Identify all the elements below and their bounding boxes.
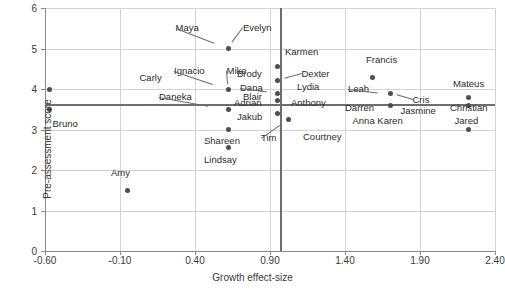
x-tick-label: 1.90	[410, 255, 429, 266]
point-label: Adrian	[234, 98, 261, 108]
point-label: Courtney	[303, 132, 342, 142]
y-tick-mark	[41, 89, 45, 90]
point-label: Lindsay	[204, 155, 237, 165]
data-point[interactable]	[275, 91, 280, 96]
x-tick-label: -0.60	[34, 255, 57, 266]
y-tick-label: 5	[15, 43, 37, 54]
x-tick-label: 0.40	[185, 255, 204, 266]
y-tick-label: 1	[15, 205, 37, 216]
point-label: Dexter	[302, 69, 330, 79]
data-point[interactable]	[388, 91, 393, 96]
data-point[interactable]	[275, 98, 280, 103]
point-label: Cris	[413, 95, 430, 105]
label-leader-line	[284, 73, 302, 79]
data-point[interactable]	[466, 127, 471, 132]
data-point[interactable]	[226, 87, 231, 92]
point-label: Karmen	[285, 47, 318, 57]
y-tick-mark	[41, 8, 45, 9]
data-point[interactable]	[388, 103, 393, 108]
x-tick-label: 0.90	[260, 255, 279, 266]
scatter-chart: CarlyBrunoAmyEvelynMayaMikeIgnacioBlairD…	[0, 0, 505, 298]
gridline-vertical	[345, 8, 346, 251]
data-point[interactable]	[226, 145, 231, 150]
point-label: Francis	[366, 55, 397, 65]
point-label: Christian	[450, 103, 488, 113]
point-label: Lydia	[297, 82, 319, 92]
point-label: Mateus	[453, 79, 484, 89]
data-point[interactable]	[125, 188, 130, 193]
point-label: Carly	[140, 73, 162, 83]
y-tick-mark	[41, 49, 45, 50]
gridline-vertical	[420, 8, 421, 251]
plot-area: CarlyBrunoAmyEvelynMayaMikeIgnacioBlairD…	[45, 8, 495, 251]
y-tick-label: 2	[15, 165, 37, 176]
gridline-vertical	[195, 8, 196, 251]
data-point[interactable]	[47, 87, 52, 92]
x-tick-label: 1.40	[335, 255, 354, 266]
point-label: Brody	[237, 69, 262, 79]
gridline-vertical	[495, 8, 496, 251]
gridline-vertical	[120, 8, 121, 251]
y-tick-label: 4	[15, 84, 37, 95]
point-label: Shareen	[204, 136, 240, 146]
point-label: Jared	[455, 116, 479, 126]
y-tick-label: 3	[15, 124, 37, 135]
label-leader-line	[231, 28, 243, 43]
point-label: Anthony	[291, 98, 326, 108]
point-label: Evelyn	[243, 23, 272, 33]
data-point[interactable]	[286, 117, 291, 122]
point-label: Amy	[111, 168, 130, 178]
y-axis-title: Pre-assessment score	[42, 99, 53, 198]
data-point[interactable]	[226, 46, 231, 51]
y-tick-label: 6	[15, 3, 37, 14]
point-label: Bruno	[53, 119, 78, 129]
point-label: Jasmine	[401, 106, 436, 116]
point-label: Jakub	[237, 112, 262, 122]
label-leader-line	[396, 95, 412, 101]
y-tick-mark	[41, 170, 45, 171]
point-label: Anna Karen	[353, 116, 403, 126]
mean-growth-line	[280, 8, 282, 251]
x-tick-label: 2.40	[485, 255, 504, 266]
y-tick-mark	[41, 211, 45, 212]
x-tick-label: -0.10	[109, 255, 132, 266]
data-point[interactable]	[226, 127, 231, 132]
data-point[interactable]	[275, 78, 280, 83]
data-point[interactable]	[226, 107, 231, 112]
point-label: Darren	[345, 103, 374, 113]
data-point[interactable]	[466, 95, 471, 100]
data-point[interactable]	[275, 111, 280, 116]
x-axis-title: Growth effect-size	[0, 272, 505, 283]
data-point[interactable]	[370, 75, 375, 80]
y-tick-mark	[41, 130, 45, 131]
